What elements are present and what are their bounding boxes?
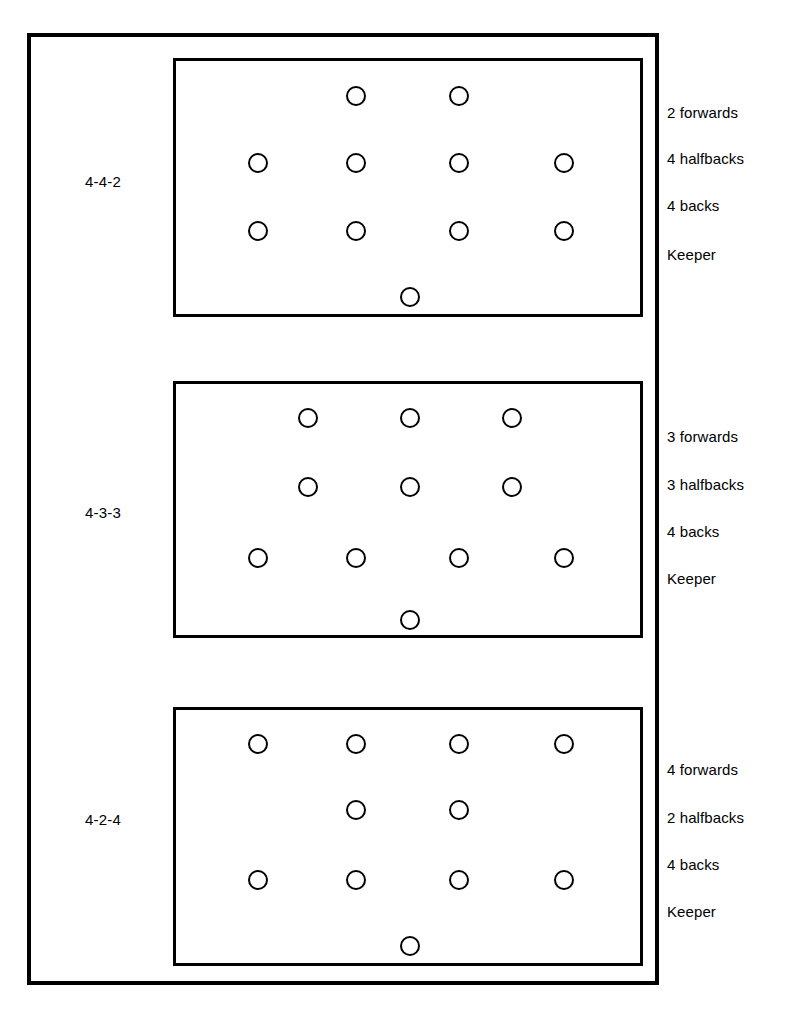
player-marker-forwards: [449, 734, 469, 754]
player-marker-halfbacks: [449, 800, 469, 820]
player-marker-keeper: [400, 936, 420, 956]
role-label: 4 backs: [667, 856, 719, 873]
player-marker-backs: [346, 870, 366, 890]
player-marker-halfbacks: [346, 800, 366, 820]
formation-name-4-2-4: 4-2-4: [85, 811, 121, 828]
role-label: Keeper: [667, 903, 716, 920]
player-marker-backs: [248, 870, 268, 890]
role-label: 4 forwards: [667, 761, 738, 778]
diagram-canvas: 4-4-22 forwards4 halfbacks4 backsKeeper4…: [0, 0, 800, 1013]
player-marker-backs: [449, 870, 469, 890]
formation-panel-4-2-4: 4-2-44 forwards2 halfbacks4 backsKeeper: [0, 0, 800, 1013]
player-marker-backs: [554, 870, 574, 890]
player-marker-forwards: [554, 734, 574, 754]
role-label: 2 halfbacks: [667, 809, 744, 826]
player-marker-forwards: [248, 734, 268, 754]
player-marker-forwards: [346, 734, 366, 754]
